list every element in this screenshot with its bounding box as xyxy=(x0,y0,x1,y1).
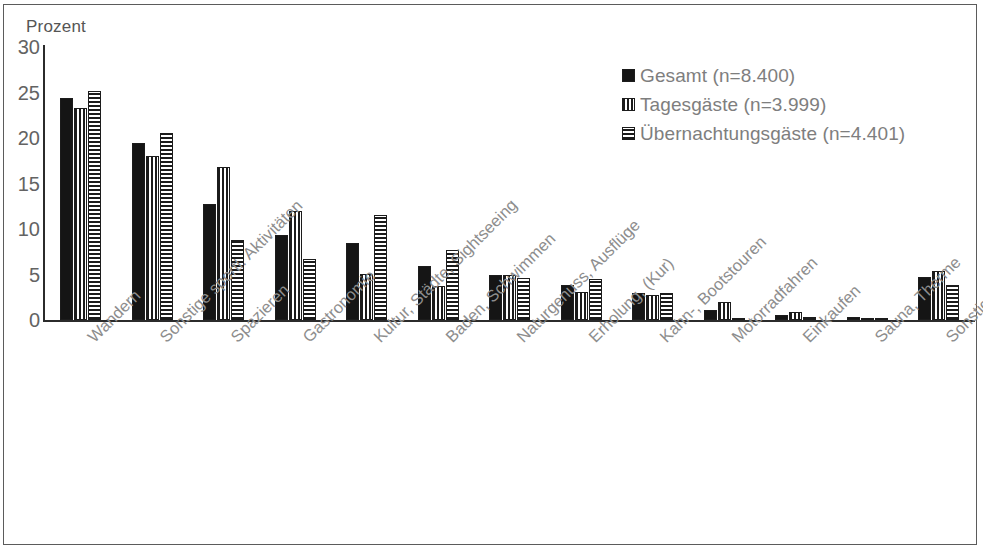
y-axis-tick: 15 xyxy=(6,174,40,194)
legend-swatch-icon xyxy=(622,98,635,111)
legend-item: Tagesgäste (n=3.999) xyxy=(622,90,905,119)
x-axis-label: Motorradfahren xyxy=(728,333,741,346)
legend-label: Übernachtungsgäste (n=4.401) xyxy=(640,123,905,145)
chart-legend: Gesamt (n=8.400)Tagesgäste (n=3.999)Über… xyxy=(622,61,905,148)
legend-swatch-icon xyxy=(622,127,635,140)
bar xyxy=(704,310,717,320)
bar xyxy=(60,98,73,320)
x-axis-label: Sonstige sportl. Aktivitäten xyxy=(156,333,169,346)
bar xyxy=(160,133,173,320)
bar-group xyxy=(60,47,101,320)
y-axis-tick: 5 xyxy=(6,265,40,285)
bar xyxy=(289,211,302,320)
bar xyxy=(146,156,159,320)
bar xyxy=(303,259,316,320)
x-axis-label: Gastronomie xyxy=(299,333,312,346)
x-axis-label-container: WandernSonstige sportl. AktivitätenSpazi… xyxy=(44,323,979,538)
bar xyxy=(217,167,230,320)
x-axis-label: Kahn-, Bootstouren xyxy=(656,333,669,346)
legend-label: Tagesgäste (n=3.999) xyxy=(640,94,826,116)
bar xyxy=(74,108,87,320)
x-axis-label: Naturgenuss, Ausflüge xyxy=(513,333,526,346)
x-axis-label: Kultur, Städte, Sightseeing xyxy=(370,333,383,346)
bar xyxy=(861,318,874,320)
legend-item: Gesamt (n=8.400) xyxy=(622,61,905,90)
bar xyxy=(718,302,731,320)
y-axis-tick: 30 xyxy=(6,37,40,57)
legend-item: Übernachtungsgäste (n=4.401) xyxy=(622,119,905,148)
bar xyxy=(575,292,588,320)
y-axis-tick: 25 xyxy=(6,83,40,103)
bar xyxy=(374,215,387,320)
bar-group xyxy=(132,47,173,320)
y-axis-tick: 0 xyxy=(6,310,40,330)
x-axis-label: Sauna, Therme xyxy=(871,333,884,346)
x-axis-label: Erholung, (Kur) xyxy=(585,333,598,346)
x-axis-label: Einkaufen xyxy=(799,333,812,346)
bar xyxy=(775,315,788,320)
y-axis-tick: 20 xyxy=(6,128,40,148)
x-axis-label: Wandern xyxy=(84,333,97,346)
bar xyxy=(88,91,101,320)
y-axis-tick: 10 xyxy=(6,219,40,239)
y-axis-tick-container: 051015202530 xyxy=(4,5,40,325)
legend-swatch-icon xyxy=(622,69,635,82)
legend-label: Gesamt (n=8.400) xyxy=(640,65,795,87)
bar xyxy=(646,295,659,320)
bar xyxy=(789,312,802,320)
bar-group xyxy=(275,47,316,320)
bar xyxy=(589,279,602,320)
bar xyxy=(847,317,860,320)
bar xyxy=(946,285,959,320)
x-axis-label: Spazieren xyxy=(227,333,240,346)
chart-frame: Prozent 051015202530 WandernSonstige spo… xyxy=(3,4,977,545)
bar xyxy=(517,278,530,320)
x-axis-label: Baden, Schwimmen xyxy=(442,333,455,346)
x-axis-label: Sonstiges xyxy=(942,333,955,346)
